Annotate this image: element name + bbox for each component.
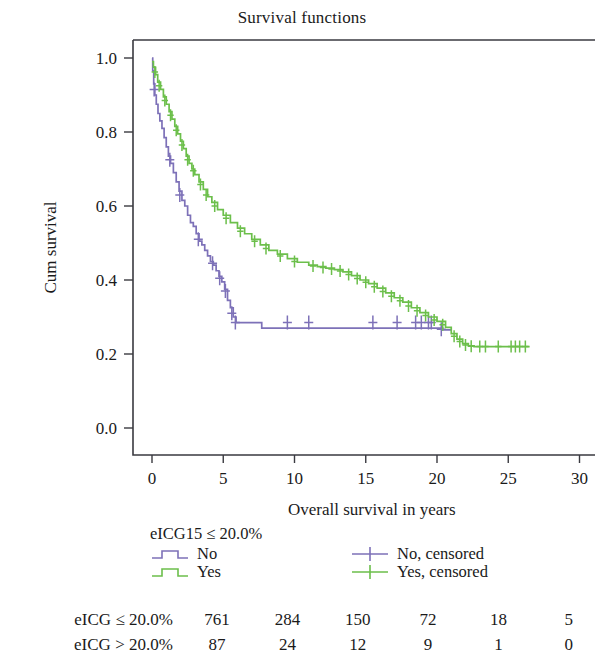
censor-marker [310,260,316,272]
censor-marker [320,261,326,273]
y-tick-label: 0.0 [96,419,117,438]
legend-title: eICG15 ≤ 20.0% [150,524,596,544]
x-tick-label: 5 [219,469,228,488]
censor-marker [397,295,403,307]
numbers-at-risk-table: eICG ≤ 20.0%76128415072185eICG > 20.0%87… [0,608,604,658]
legend-label-yes-censored: Yes, censored [397,564,488,581]
legend-label-yes: Yes [197,564,221,581]
step-line-icon [150,546,190,562]
censor-marker [522,341,528,353]
plot-axes [124,40,595,463]
x-tick-label: 30 [571,469,588,488]
chart-legend: eICG15 ≤ 20.0% No No, censored Yes [136,524,596,580]
censor-marker [495,341,501,353]
risk-row-label: eICG > 20.0% [0,633,182,658]
risk-row-value: 9 [393,633,463,658]
plus-marker-icon [350,546,390,562]
y-tick-label: 0.4 [96,271,118,290]
legend-item-yes[interactable]: Yes [150,564,350,581]
censor-marker [345,268,351,280]
risk-row-value: 284 [252,608,322,633]
risk-row-value: 5 [534,608,604,633]
survival-curve-no [150,58,452,336]
censor-marker [363,276,369,288]
censor-marker [482,341,488,353]
y-tick-label: 0.2 [96,345,117,364]
table-row: eICG ≤ 20.0%76128415072185 [0,608,604,633]
censor-marker [414,305,420,317]
x-tick-label: 15 [357,469,374,488]
legend-label-no: No [197,546,217,563]
legend-item-yes-censored[interactable]: Yes, censored [350,564,596,581]
risk-row-value: 18 [463,608,533,633]
censor-marker [371,281,377,293]
risk-row-value: 87 [182,633,252,658]
risk-row-value: 1 [463,633,533,658]
plot-axis-labels: 0510152025300.00.20.40.60.81.0Overall su… [41,49,588,519]
censor-marker [388,290,394,302]
censor-marker [477,341,483,353]
curve-line [152,62,530,347]
y-axis-title: Cum survival [41,201,60,293]
risk-row-value: 150 [323,608,393,633]
plot-curves [150,58,530,353]
y-tick-label: 1.0 [96,49,117,68]
censor-marker [150,82,159,96]
censor-marker [328,263,334,275]
censor-marker [337,265,343,277]
legend-label-no-censored: No, censored [397,546,484,563]
censor-marker [291,256,297,268]
survival-plot: 0510152025300.00.20.40.60.81.0Overall su… [0,0,604,520]
curve-line [152,58,451,330]
censor-marker [221,284,230,298]
censor-marker [516,341,522,353]
risk-row-value: 12 [323,633,393,658]
censor-marker [380,285,386,297]
plus-marker-icon [350,564,390,580]
legend-item-no-censored[interactable]: No, censored [350,546,596,563]
censor-marker [354,273,360,285]
legend-entries: No No, censored Yes Yes, censored [150,546,596,580]
risk-row-value: 72 [393,608,463,633]
survival-curve-yes [152,62,530,353]
legend-item-no[interactable]: No [150,546,350,563]
x-tick-label: 20 [429,469,446,488]
x-tick-label: 0 [148,469,157,488]
x-axis-title: Overall survival in years [288,500,456,519]
y-tick-label: 0.8 [96,123,117,142]
risk-row-label: eICG ≤ 20.0% [0,608,182,633]
step-line-icon [150,564,190,580]
table-row: eICG > 20.0%872412910 [0,633,604,658]
risk-row-value: 0 [534,633,604,658]
risk-row-value: 24 [252,633,322,658]
censor-marker [468,340,474,352]
x-tick-label: 25 [500,469,517,488]
survival-figure: Survival functions 0510152025300.00.20.4… [0,0,604,668]
y-tick-label: 0.6 [96,197,117,216]
censor-marker [215,271,224,285]
x-tick-label: 10 [286,469,303,488]
risk-row-value: 761 [182,608,252,633]
